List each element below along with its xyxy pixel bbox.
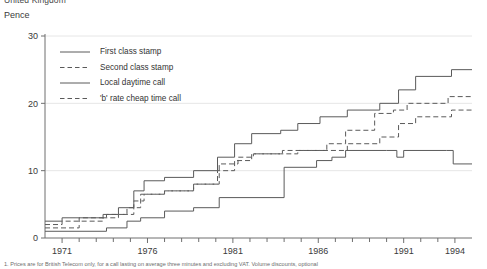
legend-b-rate-cheap-time-call-label: 'b' rate cheap time call (100, 94, 181, 103)
x-tick-label-1976: 1976 (137, 246, 157, 256)
x-tick-label-1994: 1994 (445, 246, 465, 256)
chart-footnote: 1. Prices are for British Telecom only, … (4, 261, 318, 267)
legend-local-daytime-call-label: Local daytime call (100, 78, 165, 87)
y-tick-label-10: 10 (28, 166, 38, 176)
y-tick-label-0: 0 (33, 233, 38, 243)
series-line-1 (45, 110, 472, 224)
series-line-3 (45, 97, 472, 228)
legend-first-class-stamp-label: First class stamp (100, 47, 162, 56)
series-line-2 (45, 150, 472, 231)
x-tick-label-1971: 1971 (52, 246, 72, 256)
y-tick-label-30: 30 (28, 31, 38, 41)
series-line-0 (45, 70, 472, 222)
x-tick-label-1986: 1986 (308, 246, 328, 256)
x-tick-label-1991: 1991 (394, 246, 414, 256)
legend-second-class-stamp-label: Second class stamp (100, 63, 174, 72)
chart-figure: United Kingdom Pence 0102030197119761981… (0, 0, 487, 269)
y-tick-label-20: 20 (28, 99, 38, 109)
line-chart-plot: 0102030197119761981198619911994First cla… (0, 0, 487, 269)
x-tick-label-1981: 1981 (223, 246, 243, 256)
